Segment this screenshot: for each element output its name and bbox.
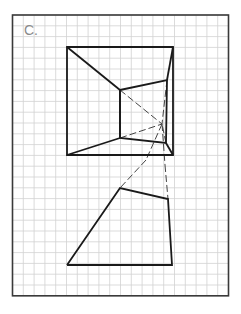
perspective-drawing [0,0,241,314]
construction-line [120,124,162,138]
edge-line [67,138,120,155]
construction-line [165,165,168,199]
construction-line [120,90,162,124]
edge-line [67,47,120,90]
lower-shape [67,188,172,265]
figure-label: C. [24,22,38,38]
